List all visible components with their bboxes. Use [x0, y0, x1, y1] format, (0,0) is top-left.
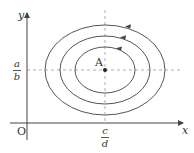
y-fraction-numerator: a	[14, 59, 20, 69]
x-coordinate-fraction: c d	[101, 126, 109, 149]
y-coordinate-fraction: a b	[13, 59, 21, 82]
x-axis-label: x	[182, 125, 188, 136]
y-axis-label: y	[18, 10, 24, 21]
x-fraction-denominator: d	[102, 139, 108, 149]
x-fraction-numerator: c	[102, 126, 108, 136]
phase-portrait-diagram	[0, 0, 194, 153]
origin-label: O	[17, 126, 26, 137]
point-a-label: A	[95, 57, 103, 68]
y-fraction-denominator: b	[14, 72, 20, 82]
equilibrium-point	[103, 68, 107, 72]
